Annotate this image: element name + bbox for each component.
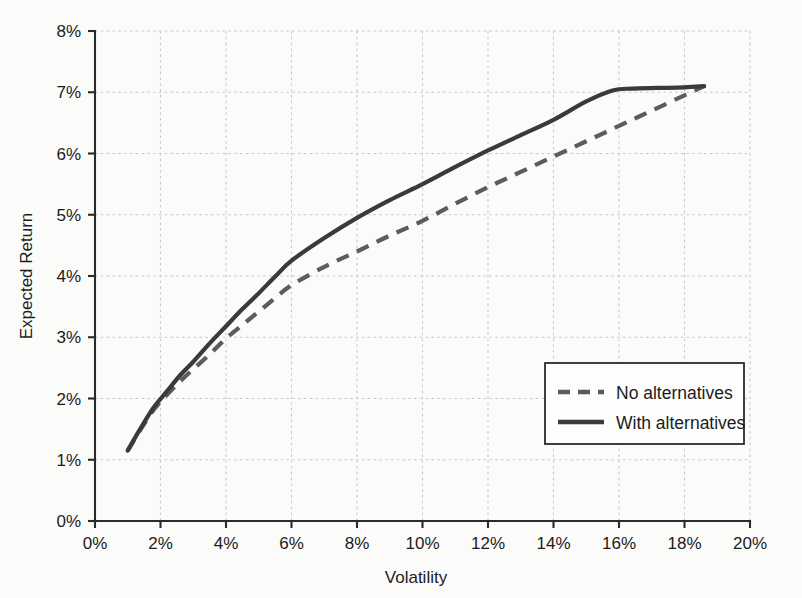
x-tick-label: 12% <box>471 534 505 553</box>
y-tick-label: 1% <box>56 451 81 470</box>
x-tick-label: 18% <box>667 534 701 553</box>
y-tick-label: 0% <box>56 512 81 531</box>
y-tick-label: 3% <box>56 328 81 347</box>
legend-label-with-alternatives: With alternatives <box>616 413 746 433</box>
y-tick-label: 7% <box>56 83 81 102</box>
x-tick-label: 16% <box>602 534 636 553</box>
y-axis-tick-labels: 0%1%2%3%4%5%6%7%8% <box>56 22 81 531</box>
y-axis-title: Expected Return <box>17 213 36 340</box>
chart-container: 0%1%2%3%4%5%6%7%8% 0%2%4%6%8%10%12%14%16… <box>0 0 802 598</box>
chart-legend: No alternatives With alternatives <box>545 363 746 444</box>
y-tick-label: 6% <box>56 145 81 164</box>
x-tick-label: 4% <box>214 534 239 553</box>
x-tick-label: 2% <box>148 534 173 553</box>
x-tick-label: 14% <box>536 534 570 553</box>
legend-label-no-alternatives: No alternatives <box>616 383 733 403</box>
x-axis-title: Volatility <box>385 568 448 587</box>
y-tick-label: 2% <box>56 390 81 409</box>
y-tick-label: 8% <box>56 22 81 41</box>
expected-return-vs-volatility-chart: 0%1%2%3%4%5%6%7%8% 0%2%4%6%8%10%12%14%16… <box>0 0 802 598</box>
chart-background <box>0 0 802 598</box>
x-tick-label: 20% <box>733 534 767 553</box>
y-tick-label: 5% <box>56 206 81 225</box>
x-tick-label: 8% <box>345 534 370 553</box>
x-tick-label: 10% <box>405 534 439 553</box>
x-tick-label: 0% <box>83 534 108 553</box>
x-tick-label: 6% <box>279 534 304 553</box>
y-tick-label: 4% <box>56 267 81 286</box>
